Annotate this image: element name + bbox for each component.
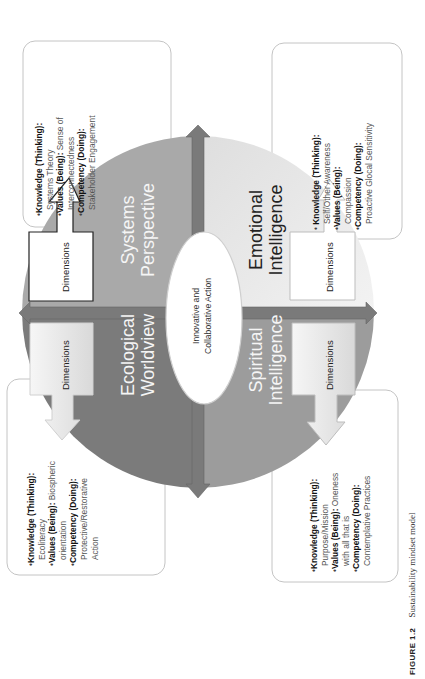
- emotional-title: Emotional Intelligence: [246, 170, 286, 290]
- systems-info-text: •Knowledge (Thinking): Systems Theory •V…: [34, 115, 98, 216]
- spiritual-title: Spiritual Intelligence: [246, 300, 286, 420]
- systems-dimensions-label: Dimensions: [60, 242, 71, 292]
- center-label: Innovative and Collaborative Action: [190, 268, 214, 364]
- sustainability-mindset-diagram: •Knowledge (Thinking): Systems Theory •V…: [0, 0, 425, 679]
- systems-title: Systems Perspective: [118, 170, 158, 290]
- ecological-info-text: •Knowledge (Thinking): Ecoliteracy •Valu…: [26, 461, 100, 566]
- systems-item-knowledge: •Knowledge (Thinking):: [34, 115, 45, 216]
- emotional-dimensions-label: Dimensions: [324, 242, 335, 292]
- figure-label: FIGURE 1.2: [408, 628, 417, 675]
- emotional-info-text: • Knowledge (Thinking): Self/Other Aware…: [311, 123, 375, 230]
- systems-item-competency: •Competency (Doing):: [76, 115, 87, 216]
- ecological-title: Ecological Worldview: [118, 295, 158, 415]
- spiritual-dimensions-label: Dimensions: [324, 340, 335, 390]
- systems-item-values: •Values (Being): Sense of: [55, 115, 66, 216]
- ecological-dimensions-label: Dimensions: [60, 340, 71, 390]
- figure-caption: FIGURE 1.2Sustainability mindset model: [407, 513, 417, 675]
- figure-caption-text: Sustainability mindset model: [407, 513, 417, 618]
- spiritual-info-text: •Knowledge (Thinking): Purpose/Mission •…: [309, 473, 373, 572]
